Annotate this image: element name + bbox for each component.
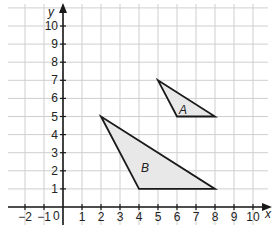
x-tick-label: 9 — [231, 210, 238, 224]
y-tick-label: 10 — [45, 19, 59, 33]
y-axis-label: y — [47, 5, 55, 19]
x-tick-label: 2 — [98, 210, 105, 224]
x-tick-label: −1 — [37, 210, 51, 224]
y-tick-label: 3 — [51, 146, 58, 160]
x-tick-label: 3 — [117, 210, 124, 224]
x-axis-label: x — [264, 207, 272, 221]
y-tick-label: 5 — [51, 110, 58, 124]
coordinate-plane: −2−11234567891012345678910 x y 0 A B — [0, 0, 276, 227]
y-tick-label: 2 — [51, 164, 58, 178]
x-tick-label: −2 — [18, 210, 32, 224]
y-tick-label: 6 — [51, 91, 58, 105]
y-tick-label: 9 — [51, 37, 58, 51]
grid-lines — [8, 4, 268, 225]
y-tick-label: 8 — [51, 55, 58, 69]
x-tick-label: 8 — [212, 210, 219, 224]
x-tick-label: 5 — [155, 210, 162, 224]
x-tick-label: 7 — [193, 210, 200, 224]
triangle-b-label: B — [141, 161, 149, 175]
x-tick-label: 1 — [79, 210, 86, 224]
axes — [8, 3, 272, 225]
x-tick-label: 6 — [174, 210, 181, 224]
origin-label: 0 — [53, 209, 60, 223]
triangle-a-label: A — [178, 103, 187, 117]
y-tick-label: 7 — [51, 73, 58, 87]
y-tick-label: 4 — [51, 128, 58, 142]
x-tick-label: 10 — [246, 210, 260, 224]
x-tick-label: 4 — [136, 210, 143, 224]
y-tick-label: 1 — [51, 182, 58, 196]
